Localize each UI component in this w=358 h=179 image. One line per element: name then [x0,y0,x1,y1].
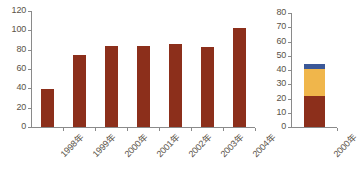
y-axis-tick [28,50,31,51]
x-axis-line [291,127,337,128]
bar-segment-1[interactable] [41,89,54,127]
bar[interactable] [137,11,150,127]
x-axis-tick [127,128,128,131]
bar-segment-1[interactable] [233,28,246,127]
y-axis-tick-label: 0 [259,122,286,131]
bar-segment-3[interactable] [304,64,325,68]
bar[interactable] [41,11,54,127]
y-axis-tick-label: 60 [0,64,26,73]
bar[interactable] [201,11,214,127]
y-axis-tick [288,13,291,14]
x-axis-tick [255,128,256,131]
y-axis-tick-label: 30 [259,79,286,88]
x-axis-line [31,127,255,128]
y-axis-tick-label: 0 [0,122,26,131]
y-axis-tick-label: 80 [0,45,26,54]
bar[interactable] [304,13,325,127]
y-axis-tick [28,127,31,128]
y-axis-tick [288,42,291,43]
y-axis-tick [28,108,31,109]
x-axis-tick [95,128,96,131]
x-axis-category-label: 2002年 [187,133,213,159]
bar-segment-1[interactable] [304,96,325,127]
y-axis-tick [288,113,291,114]
y-axis-tick [28,69,31,70]
x-axis-tick [223,128,224,131]
bar-segment-1[interactable] [169,44,182,127]
y-axis-tick-label: 10 [259,108,286,117]
y-axis-tick [288,127,291,128]
y-axis-tick-label: 20 [0,103,26,112]
y-axis-tick-label: 40 [259,65,286,74]
y-axis-tick [288,84,291,85]
y-axis-tick-label: 50 [259,51,286,60]
x-axis-tick [63,128,64,131]
x-axis-category-label: 2000年 [332,133,358,159]
bar[interactable] [73,11,86,127]
y-axis-tick [288,99,291,100]
bar-segment-1[interactable] [137,46,150,127]
x-axis-tick [159,128,160,131]
y-axis-tick [288,70,291,71]
y-axis-tick [288,56,291,57]
y-axis-tick-label: 40 [0,83,26,92]
x-axis-category-label: 2001年 [155,133,181,159]
x-axis-tick [191,128,192,131]
bar-segment-1[interactable] [201,47,214,127]
bar[interactable] [105,11,118,127]
y-axis-tick [288,27,291,28]
y-axis-tick-label: 20 [259,94,286,103]
bar-segment-1[interactable] [73,55,86,127]
right-stacked-bar-chart: 010203040506070802000年 [262,0,338,179]
y-axis-tick-label: 120 [0,6,26,15]
bar[interactable] [169,11,182,127]
y-axis-tick-label: 100 [0,25,26,34]
left-bar-chart: 0204060801001201998年1999年2000年2001年2002年… [0,0,262,179]
bar-segment-1[interactable] [105,46,118,127]
y-axis-line [291,13,292,127]
y-axis-tick-label: 60 [259,37,286,46]
x-axis-category-label: 1998年 [59,133,85,159]
x-axis-category-label: 2000年 [123,133,149,159]
x-axis-category-label: 1999年 [91,133,117,159]
y-axis-tick [28,11,31,12]
y-axis-tick [28,30,31,31]
bar-segment-2[interactable] [304,69,325,96]
y-axis-tick-label: 80 [259,8,286,17]
x-axis-tick [337,128,338,131]
bar[interactable] [233,11,246,127]
x-axis-category-label: 2003年 [219,133,245,159]
y-axis-tick-label: 70 [259,22,286,31]
y-axis-line [31,11,32,127]
y-axis-tick [28,88,31,89]
